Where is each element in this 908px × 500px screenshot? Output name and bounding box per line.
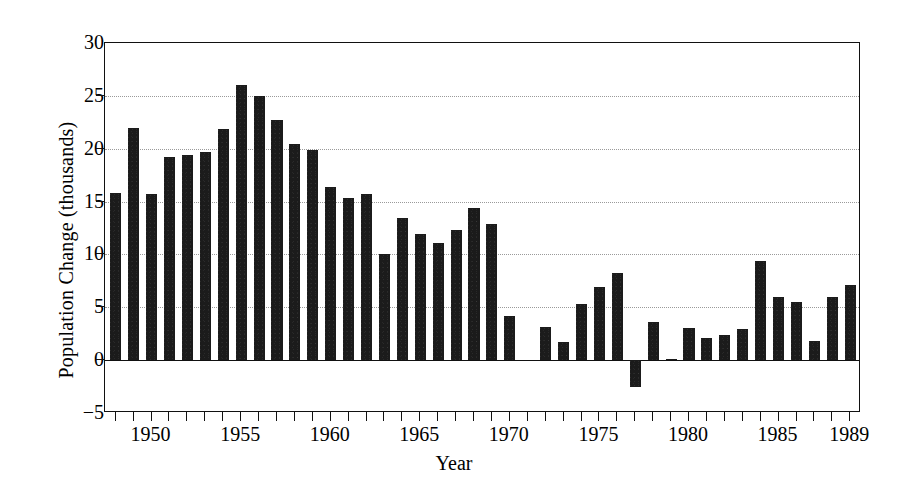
x-tick-mark — [760, 412, 761, 421]
x-tick-mark — [509, 412, 510, 421]
x-tick-mark — [330, 412, 331, 421]
x-tick-label: 1965 — [399, 424, 439, 444]
bar — [164, 157, 175, 360]
x-tick-mark — [240, 412, 241, 421]
bar — [182, 155, 193, 360]
x-tick-mark — [634, 412, 635, 421]
x-tick-mark — [455, 412, 456, 421]
bar — [146, 194, 157, 360]
population-change-bar-chart: Population Change (thousands) −505101520… — [0, 0, 908, 500]
bar — [289, 144, 300, 360]
x-tick-mark — [186, 412, 187, 421]
y-tick-mark — [96, 306, 104, 307]
bar — [325, 187, 336, 360]
y-tick-mark — [96, 253, 104, 254]
bar — [236, 85, 247, 360]
x-tick-mark — [849, 412, 850, 421]
bar — [648, 322, 659, 360]
y-tick-label: 30 — [58, 32, 104, 52]
x-tick-mark — [312, 412, 313, 421]
bar — [307, 150, 318, 360]
bar — [254, 96, 265, 360]
bar — [397, 218, 408, 360]
x-tick-mark — [491, 412, 492, 421]
bar — [486, 224, 497, 360]
bar — [540, 327, 551, 360]
x-tick-mark — [258, 412, 259, 421]
x-tick-mark — [222, 412, 223, 421]
x-tick-mark — [545, 412, 546, 421]
x-tick-mark — [419, 412, 420, 421]
bar — [200, 152, 211, 360]
bar — [361, 194, 372, 360]
x-tick-mark — [670, 412, 671, 421]
plot-area — [104, 42, 860, 412]
x-tick-label: 1980 — [668, 424, 708, 444]
x-tick-mark — [742, 412, 743, 421]
x-tick-mark — [616, 412, 617, 421]
bar — [379, 254, 390, 360]
bar — [343, 198, 354, 360]
bar — [809, 341, 820, 360]
bar — [612, 273, 623, 360]
y-tick-mark — [96, 95, 104, 96]
x-tick-mark — [796, 412, 797, 421]
bar — [576, 304, 587, 360]
bar — [666, 359, 677, 360]
bar — [110, 193, 121, 360]
x-tick-mark — [473, 412, 474, 421]
bar — [719, 335, 730, 360]
x-tick-mark — [151, 412, 152, 421]
y-tick-mark — [96, 359, 104, 360]
x-tick-label: 1950 — [131, 424, 171, 444]
bar — [683, 328, 694, 360]
x-tick-mark — [706, 412, 707, 421]
x-tick-mark — [294, 412, 295, 421]
x-axis-ticks — [104, 412, 860, 422]
x-tick-label: 1975 — [578, 424, 618, 444]
x-tick-mark — [366, 412, 367, 421]
x-tick-mark — [724, 412, 725, 421]
x-tick-mark — [813, 412, 814, 421]
x-tick-mark — [831, 412, 832, 421]
x-tick-mark — [437, 412, 438, 421]
y-tick-mark — [96, 201, 104, 202]
bar — [558, 342, 569, 360]
bar — [218, 129, 229, 361]
bar — [271, 120, 282, 360]
bar — [845, 285, 856, 360]
y-tick-mark — [96, 148, 104, 149]
x-tick-mark — [527, 412, 528, 421]
bar — [791, 302, 802, 360]
x-tick-label: 1955 — [220, 424, 260, 444]
x-tick-mark — [581, 412, 582, 421]
bar — [701, 338, 712, 360]
y-tick-label: −5 — [58, 402, 104, 422]
x-tick-label: 1985 — [758, 424, 798, 444]
bar — [773, 297, 784, 360]
bar — [415, 234, 426, 360]
x-tick-mark — [204, 412, 205, 421]
y-axis-ticks: −5051015202530 — [46, 0, 104, 500]
bar — [827, 297, 838, 360]
x-tick-mark — [133, 412, 134, 421]
bar — [594, 287, 605, 360]
x-tick-mark — [348, 412, 349, 421]
bar-series — [105, 43, 859, 411]
x-tick-mark — [168, 412, 169, 421]
x-tick-mark — [778, 412, 779, 421]
x-tick-mark — [598, 412, 599, 421]
x-tick-label: 1960 — [310, 424, 350, 444]
x-tick-mark — [652, 412, 653, 421]
bar — [433, 243, 444, 360]
x-tick-mark — [276, 412, 277, 421]
x-tick-mark — [401, 412, 402, 421]
x-tick-label: 1989 — [829, 424, 869, 444]
bar — [755, 261, 766, 360]
bar — [630, 360, 641, 386]
x-tick-mark — [115, 412, 116, 421]
x-tick-mark — [383, 412, 384, 421]
x-tick-label: 1970 — [489, 424, 529, 444]
x-tick-mark — [563, 412, 564, 421]
bar — [504, 316, 515, 360]
